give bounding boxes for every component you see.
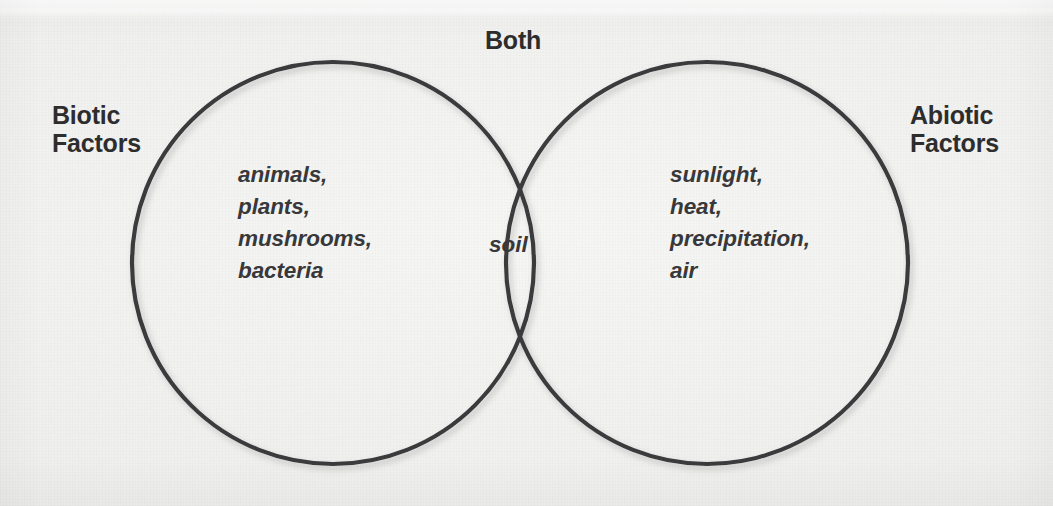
list-item: air — [670, 255, 810, 287]
list-item: mushrooms, — [238, 223, 372, 255]
list-item: animals, — [238, 159, 372, 191]
venn-diagram-page: Biotic Factors Abiotic Factors Both anim… — [0, 0, 1053, 506]
list-item: plants, — [238, 191, 372, 223]
right-set-label: Abiotic Factors — [910, 101, 999, 158]
left-set-items: animals, plants, mushrooms, bacteria — [238, 159, 372, 287]
list-item: bacteria — [238, 255, 372, 287]
right-set-items: sunlight, heat, precipitation, air — [670, 159, 810, 287]
left-set-label: Biotic Factors — [52, 101, 141, 158]
intersection-items: soil — [489, 229, 528, 261]
intersection-label: Both — [485, 26, 541, 54]
list-item: sunlight, — [670, 159, 810, 191]
list-item: soil — [489, 229, 528, 261]
list-item: precipitation, — [670, 223, 810, 255]
list-item: heat, — [670, 191, 810, 223]
